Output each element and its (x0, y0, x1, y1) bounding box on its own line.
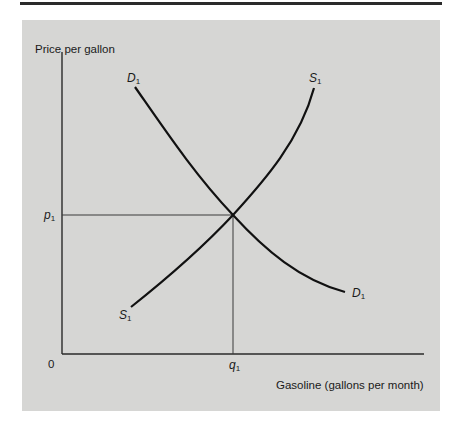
demand-curve (135, 87, 345, 292)
demand-label-top: D1 (127, 71, 140, 86)
supply-label-top: S1 (309, 71, 321, 86)
supply-label-bottom: S1 (119, 308, 131, 323)
x-axis-label: Gasoline (gallons per month) (276, 379, 424, 391)
demand-label-bottom: D1 (352, 286, 365, 301)
y-axis-label: Price per gallon (35, 43, 115, 55)
price-p1-label: p1 (44, 208, 55, 223)
quantity-q1-label: q1 (229, 358, 240, 373)
origin-label: 0 (48, 358, 54, 370)
